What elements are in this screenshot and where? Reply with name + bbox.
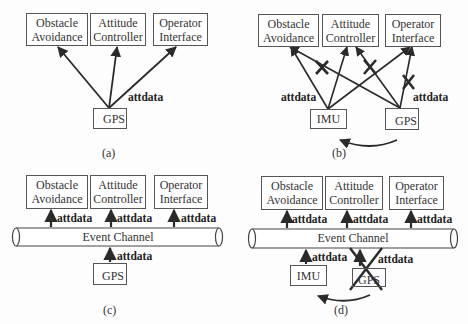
box-line2: Avoidance	[266, 193, 317, 207]
box-line2: Interface	[159, 30, 202, 44]
box-line1: Attitude	[334, 179, 373, 193]
gps-label: GPS	[395, 114, 417, 128]
box-line2: Avoidance	[31, 30, 82, 44]
panel-b-imu-box: IMU	[310, 109, 347, 129]
box-line2: Controller	[329, 193, 378, 207]
gps-label: GPS	[358, 273, 380, 287]
panel-b-caption: (b)	[332, 146, 346, 161]
box-line2: Controller	[326, 31, 375, 45]
box-line2: Avoidance	[31, 192, 82, 206]
panel-d-attdata-label-oi: attdata	[417, 213, 452, 225]
box-line1: Operator	[392, 17, 435, 31]
box-line2: Interface	[395, 193, 438, 207]
gps-label: GPS	[102, 269, 124, 283]
gps-label: GPS	[103, 112, 125, 126]
panel-c-caption: (c)	[103, 303, 116, 318]
panel-a-attdata-label: attdata	[128, 91, 163, 103]
panel-d-attdata-label-gps: attdata	[378, 253, 413, 265]
connector-layer	[0, 0, 468, 324]
panel-d-attdata-label-oa: attdata	[292, 213, 327, 225]
panel-b-attdata-label-imu: attdata	[281, 91, 316, 103]
panel-c-event-channel-label: Event Channel	[78, 230, 158, 245]
panel-b-cross-marks	[316, 60, 414, 89]
panel-d-imu-box: IMU	[290, 265, 327, 286]
panel-d-obstacle-avoidance-box: Obstacle Avoidance	[261, 176, 323, 210]
panel-c-attdata-label-oi: attdata	[181, 212, 216, 224]
panel-c-obstacle-avoidance-box: Obstacle Avoidance	[26, 175, 88, 209]
box-line1: Operator	[160, 178, 203, 192]
box-line1: Attitude	[98, 16, 137, 30]
panel-b-obstacle-avoidance-box: Obstacle Avoidance	[258, 14, 319, 47]
panel-a-operator-interface-box: Operator Interface	[153, 13, 208, 46]
panel-a-attitude-controller-box: Attitude Controller	[90, 13, 146, 46]
box-line1: Obstacle	[36, 16, 78, 30]
panel-b-gps-box: GPS	[385, 108, 419, 130]
box-line1: Operator	[159, 16, 202, 30]
panel-c-gps-box: GPS	[93, 263, 127, 285]
panel-d-event-channel-label: Event Channel	[313, 231, 393, 246]
box-line2: Controller	[93, 192, 142, 206]
panel-c-attitude-controller-box: Attitude Controller	[90, 175, 146, 209]
box-line1: Obstacle	[36, 178, 78, 192]
diagram-canvas: Obstacle Avoidance Attitude Controller O…	[0, 0, 468, 324]
imu-label: IMU	[317, 112, 340, 126]
box-line2: Interface	[160, 192, 203, 206]
panel-b-failover-arrow	[340, 140, 397, 146]
box-line1: Attitude	[331, 17, 370, 31]
panel-b-operator-interface-box: Operator Interface	[385, 14, 441, 47]
box-line1: Attitude	[98, 178, 137, 192]
panel-c-attdata-label-gps: attdata	[117, 250, 152, 262]
box-line2: Avoidance	[263, 31, 314, 45]
imu-label: IMU	[297, 269, 320, 283]
panel-a-caption: (a)	[102, 146, 115, 161]
box-line1: Operator	[395, 179, 438, 193]
panel-d-attdata-label-imu: attdata	[312, 251, 347, 263]
panel-c-attdata-label-ac: attdata	[117, 212, 152, 224]
panel-d-operator-interface-box: Operator Interface	[389, 176, 444, 210]
box-line2: Controller	[93, 30, 142, 44]
panel-a-obstacle-avoidance-box: Obstacle Avoidance	[26, 13, 88, 46]
box-line1: Obstacle	[268, 17, 310, 31]
panel-a-gps-box: GPS	[93, 108, 127, 129]
panel-d-caption: (d)	[334, 303, 348, 318]
panel-b-attdata-label-gps: attdata	[413, 91, 448, 103]
panel-b-attitude-controller-box: Attitude Controller	[322, 14, 379, 47]
panel-d-gps-box: GPS	[352, 268, 386, 287]
panel-c-attdata-label-oa: attdata	[57, 212, 92, 224]
panel-d-attitude-controller-box: Attitude Controller	[325, 176, 383, 210]
box-line2: Interface	[392, 31, 435, 45]
box-line1: Obstacle	[271, 179, 313, 193]
panel-c-operator-interface-box: Operator Interface	[154, 175, 208, 209]
panel-d-attdata-label-ac: attdata	[353, 213, 388, 225]
panel-d-failover-arrow	[318, 295, 370, 301]
